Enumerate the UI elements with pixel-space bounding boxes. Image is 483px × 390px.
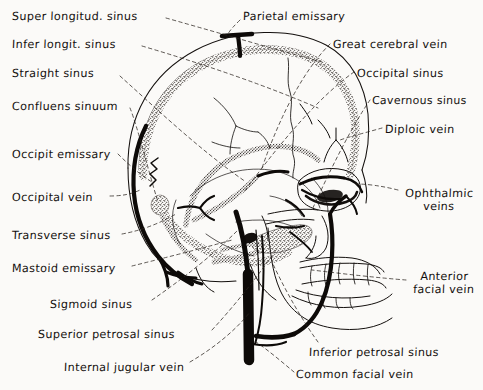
common-facial-vein	[252, 334, 294, 345]
label-occipit-emissary: Occipit emissary	[12, 148, 111, 161]
label-cavernous-sinus: Cavernous sinus	[372, 95, 467, 108]
label-great-cerebral-vein: Great cerebral vein	[333, 38, 448, 51]
label-parietal-emissary: Parietal emissary	[243, 10, 346, 23]
label-confluens-sinuum: Confluens sinuum	[12, 100, 119, 113]
label-straight-sinus: Straight sinus	[12, 67, 95, 80]
label-mastoid-emissary: Mastoid emissary	[12, 262, 116, 275]
label-infer-longit-sinus: Infer longit. sinus	[12, 38, 116, 51]
label-diploic-vein: Diploic vein	[385, 123, 455, 136]
leader-internal-jugular-vein	[190, 312, 250, 362]
label-super-longitud-sinus: Super longitud. sinus	[12, 10, 138, 23]
leader-inferior-petrosal-sinus	[272, 262, 318, 342]
confluens-sinuum	[151, 195, 169, 215]
label-sigmoid-sinus: Sigmoid sinus	[50, 298, 133, 311]
leader-diploic-vein	[340, 128, 382, 140]
leader-parietal-emissary	[228, 20, 240, 34]
leader-common-facial-vein	[256, 342, 294, 372]
label-common-facial-vein: Common facial vein	[296, 368, 414, 381]
leader-ophthalmic-veins	[356, 184, 398, 190]
label-inferior-petrosal-sinus: Inferior petrosal sinus	[309, 346, 439, 359]
anatomical-diagram-canvas: Super longitud. sinus Infer longit. sinu…	[0, 0, 483, 390]
label-superior-petrosal-sinus: Superior petrosal sinus	[38, 328, 175, 341]
label-ophthalmic-veins: Ophthalmic veins	[401, 188, 476, 213]
label-internal-jugular-vein: Internal jugular vein	[64, 361, 185, 374]
label-anterior-facial-vein: Anterior facial vein	[408, 271, 479, 296]
superior-longitudinal-sinus	[143, 49, 356, 176]
label-occipital-vein: Occipital vein	[12, 191, 94, 204]
label-occipital-sinus: Occipital sinus	[357, 67, 444, 80]
leader-anterior-facial-vein	[312, 270, 406, 280]
label-transverse-sinus: Transverse sinus	[12, 229, 111, 242]
